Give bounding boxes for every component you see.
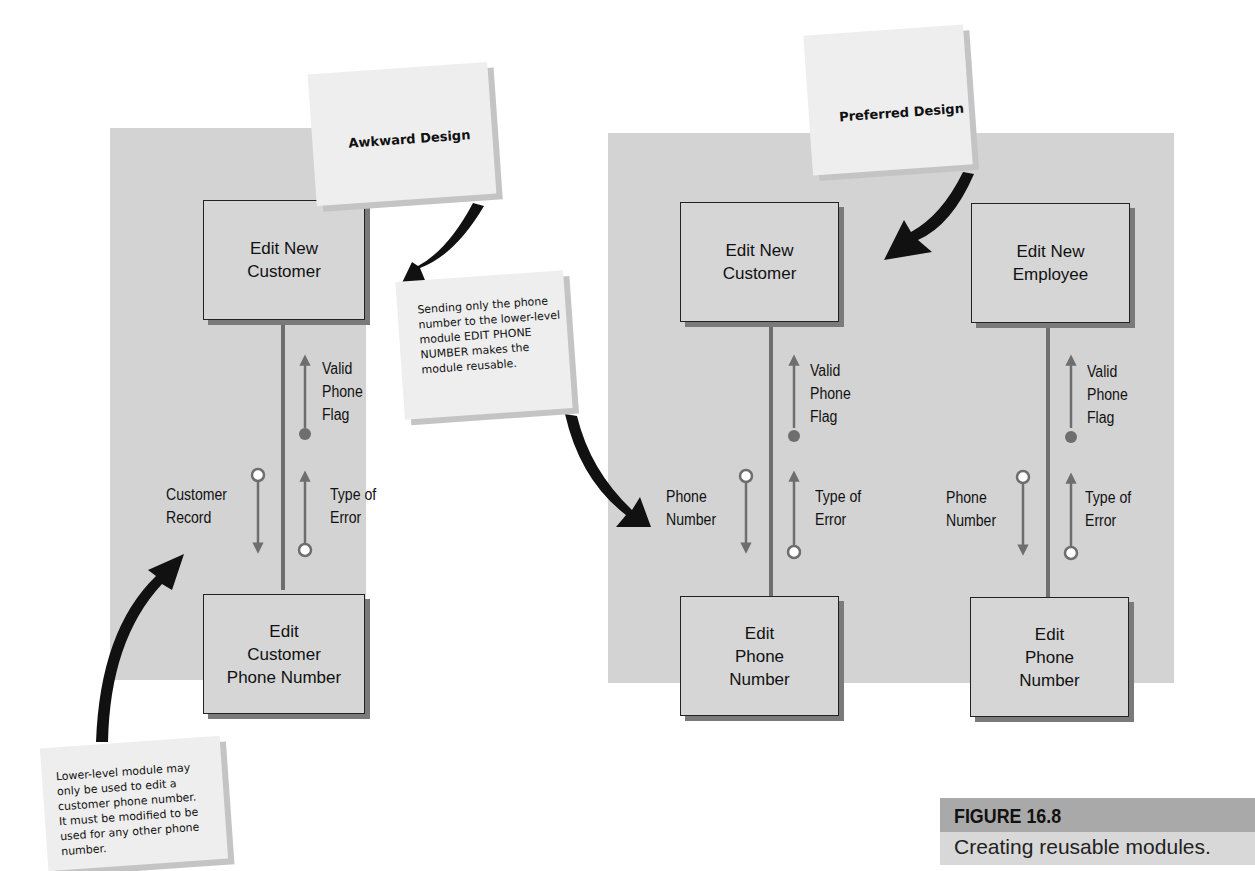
type-of-error-label-1: Type of Error: [815, 485, 861, 531]
module-edit-new-customer-awkward: Edit New Customer: [203, 200, 365, 320]
module-edit-phone-number-1: Edit Phone Number: [680, 596, 839, 716]
preferred-design-title: Preferred Design: [839, 101, 965, 125]
preferred-design-note: Preferred Design: [803, 25, 972, 176]
customer-record-label: Customer Record: [166, 483, 227, 529]
reusable-module-note: Sending only the phone number to the low…: [395, 270, 572, 419]
figure-number: FIGURE 16.8: [954, 804, 1061, 828]
preferred-structure-1-connector: [740, 325, 800, 597]
valid-phone-flag-label: Valid Phone Flag: [322, 357, 363, 426]
callout-arrow-lower-level-note: [96, 554, 184, 742]
figure-caption-bar: Creating reusable modules.: [940, 832, 1255, 865]
awkward-structure-connector: [252, 325, 311, 590]
type-of-error-label-2: Type of Error: [1085, 486, 1131, 532]
callout-arrow-preferred: [884, 172, 974, 260]
valid-phone-flag-label-2: Valid Phone Flag: [1087, 360, 1128, 429]
lower-level-module-note-text: Lower-level module may only be used to e…: [55, 760, 200, 860]
figure-caption: Creating reusable modules.: [954, 835, 1211, 859]
preferred-structure-2-connector: [1017, 325, 1077, 597]
lower-level-module-note: Lower-level module may only be used to e…: [40, 736, 228, 871]
type-of-error-label: Type of Error: [330, 483, 376, 529]
module-edit-customer-phone-number: Edit Customer Phone Number: [203, 594, 365, 714]
valid-phone-flag-label-1: Valid Phone Flag: [810, 359, 851, 428]
phone-number-label-1: Phone Number: [666, 485, 716, 531]
reusable-module-note-text: Sending only the phone number to the low…: [417, 293, 564, 378]
callout-arrow-awkward: [400, 203, 484, 287]
module-edit-new-employee: Edit New Employee: [971, 203, 1130, 323]
figure-number-bar: FIGURE 16.8: [940, 798, 1255, 832]
phone-number-label-2: Phone Number: [946, 486, 996, 532]
module-edit-phone-number-2: Edit Phone Number: [970, 597, 1129, 717]
awkward-design-note: Awkward Design: [308, 62, 497, 206]
callout-arrow-reusable-note: [565, 414, 651, 527]
awkward-design-title: Awkward Design: [348, 127, 471, 150]
module-edit-new-customer-preferred: Edit New Customer: [680, 202, 839, 322]
